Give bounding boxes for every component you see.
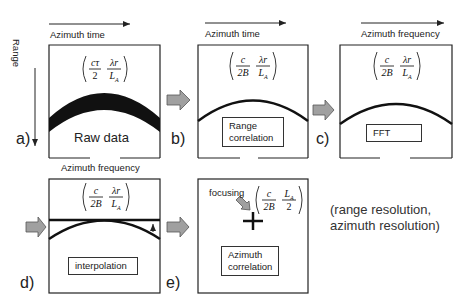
fft-curve — [340, 104, 452, 124]
range-correlation-box: Range correlation — [222, 117, 284, 147]
axis-label-range: Range — [11, 39, 22, 67]
axis-label-azimuth-time-b: Azimuth time — [205, 28, 260, 39]
formula-b-den2: LA — [256, 67, 270, 80]
axis-label-azimuth-time-a: Azimuth time — [50, 29, 105, 40]
migration-curve — [49, 221, 160, 240]
formula-b-num1: c — [236, 54, 250, 65]
focusing-label: focusing — [209, 187, 244, 198]
formula-c-num2: λr — [400, 54, 414, 65]
flow-arrow-d-e-icon — [167, 217, 189, 237]
panel-label-e: e) — [166, 274, 180, 292]
formula-b-den1: 2B — [236, 67, 250, 78]
formula-d-num2: λr — [109, 185, 123, 196]
azimuth-correlation-box: Azimuth correlation — [221, 246, 279, 276]
formula-b-num2: λr — [256, 54, 270, 65]
formula-a-den1: 2 — [89, 70, 101, 81]
interpolation-box: interpolation — [68, 257, 138, 275]
raw-data-echo-band — [49, 93, 160, 132]
focused-point-cross-icon — [243, 212, 263, 230]
formula-d-num1: c — [89, 185, 103, 196]
panel-label-a: a) — [16, 130, 30, 148]
panel-label-d: d) — [20, 274, 34, 292]
resolution-line-1: (range resolution, — [330, 202, 440, 218]
formula-e-num2: LA — [282, 188, 296, 201]
formula-e-den1: 2B — [262, 201, 276, 212]
formula-d-den1: 2B — [89, 198, 103, 209]
formula-c-num1: c — [380, 54, 394, 65]
flow-arrow-a-b-icon — [167, 90, 190, 110]
axis-label-azimuth-frequency-c: Azimuth frequency — [361, 28, 440, 39]
formula-d-den2: LA — [109, 198, 123, 211]
resolution-result-text: (range resolution, azimuth resolution) — [330, 202, 440, 234]
fft-box: FFT — [366, 124, 422, 142]
focusing-arrow-icon — [236, 196, 250, 210]
raw-data-label: Raw data — [74, 130, 129, 145]
formula-c-den1: 2B — [380, 67, 394, 78]
formula-a-num2: λr — [107, 57, 121, 68]
formula-e-num1: c — [262, 188, 276, 199]
panel-d-frame — [49, 179, 160, 293]
axis-label-azimuth-frequency-d: Azimuth frequency — [61, 162, 140, 173]
panel-label-c: c) — [316, 130, 329, 148]
flow-arrow-into-d-icon — [26, 217, 46, 237]
panel-label-b: b) — [171, 130, 185, 148]
formula-a-num1: cτ — [89, 57, 101, 68]
formula-e-den2: 2 — [282, 201, 296, 212]
formula-c-den2: LA — [400, 67, 414, 80]
resolution-line-2: azimuth resolution) — [330, 218, 440, 234]
flow-arrow-b-c-icon — [313, 100, 334, 120]
formula-a-den2: LA — [107, 70, 121, 83]
